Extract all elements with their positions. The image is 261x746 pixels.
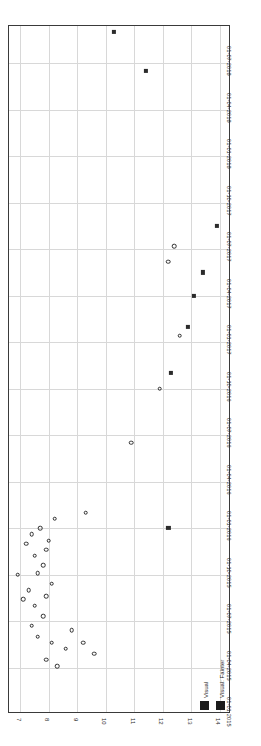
magnitude-tick-label: 8: [44, 718, 50, 721]
data-point: [200, 270, 204, 274]
date-tick-label: 01-01-2018: [226, 139, 232, 169]
date-tick-label: 01-07-2018: [226, 46, 232, 76]
data-point: [55, 664, 60, 669]
magnitude-tick-label: 14: [215, 718, 221, 725]
gridline-date-8: [9, 435, 229, 436]
data-point: [15, 572, 20, 577]
date-tick-label: 01-01-2017: [226, 325, 232, 355]
data-point: [215, 224, 219, 228]
gridline-date-11: [9, 575, 229, 576]
chart-legend: VisualVisual: Fainter: [198, 648, 232, 710]
date-tick-label: 01-04-2016: [226, 465, 232, 495]
data-point: [21, 597, 26, 602]
legend-entry[interactable]: Visual: [198, 648, 213, 710]
data-point: [49, 640, 54, 645]
data-point: [35, 634, 40, 639]
data-point: [47, 538, 52, 543]
date-tick-label: 01-04-2017: [226, 279, 232, 309]
data-point: [144, 69, 148, 73]
data-point: [64, 647, 69, 652]
data-point: [92, 651, 97, 656]
date-tick-label: 01-04-2018: [226, 93, 232, 123]
date-tick-label: 01-01-2016: [226, 511, 232, 541]
magnitude-tick-label: 9: [73, 718, 79, 721]
data-point: [35, 571, 40, 576]
data-point: [158, 386, 163, 391]
data-point: [81, 640, 86, 645]
data-point: [69, 628, 74, 633]
gridline-date-0: [9, 63, 229, 64]
data-point: [38, 526, 43, 531]
gridline-date-4: [9, 249, 229, 250]
legend-label: Visual: [203, 682, 209, 698]
data-point: [44, 594, 49, 599]
data-point: [192, 294, 196, 298]
data-point: [44, 547, 49, 552]
date-tick-label: 01-07-2017: [226, 232, 232, 262]
data-point: [166, 259, 171, 264]
gridline-magnitude-10: [106, 26, 107, 712]
magnitude-tick-label: 13: [187, 718, 193, 725]
data-point: [27, 588, 32, 593]
data-point: [112, 30, 116, 34]
legend-swatch-icon: [200, 701, 209, 710]
magnitude-tick-label: 7: [16, 718, 22, 721]
gridline-date-2: [9, 156, 229, 157]
data-point: [32, 603, 37, 608]
data-point: [44, 658, 49, 663]
data-point: [169, 371, 173, 375]
data-point: [178, 334, 183, 339]
gridline-date-9: [9, 482, 229, 483]
data-point: [24, 541, 29, 546]
data-point: [41, 614, 46, 619]
plot-area: [8, 25, 230, 713]
gridline-date-1: [9, 110, 229, 111]
gridline-magnitude-14: [220, 26, 221, 712]
data-point: [172, 244, 177, 249]
data-point: [30, 532, 35, 537]
date-tick-label: 01-07-2016: [226, 418, 232, 448]
legend-label: Visual: Fainter: [219, 660, 225, 698]
gridline-magnitude-8: [49, 26, 50, 712]
legend-entry[interactable]: Visual: Fainter: [214, 648, 229, 710]
light-curve-chart: 01-07-201801-04-201801-01-201801-10-2017…: [0, 0, 261, 746]
gridline-date-12: [9, 621, 229, 622]
gridline-date-6: [9, 342, 229, 343]
data-point: [32, 554, 37, 559]
date-tick-label: 01-07-2015: [226, 604, 232, 634]
data-point: [30, 623, 35, 628]
gridline-date-13: [9, 668, 229, 669]
data-point: [166, 526, 170, 530]
legend-swatch-icon: [216, 701, 225, 710]
magnitude-tick-label: 11: [130, 718, 136, 724]
gridline-date-3: [9, 203, 229, 204]
date-tick-label: 01-10-2016: [226, 372, 232, 402]
date-tick-label: 01-10-2017: [226, 186, 232, 216]
gridline-date-7: [9, 389, 229, 390]
data-point: [49, 582, 54, 587]
gridline-magnitude-11: [134, 26, 135, 712]
magnitude-tick-label: 12: [158, 718, 164, 725]
gridline-magnitude-7: [20, 26, 21, 712]
gridline-magnitude-12: [163, 26, 164, 712]
data-point: [41, 563, 46, 568]
date-tick-label: 01-10-2015: [226, 558, 232, 588]
magnitude-tick-label: 10: [101, 718, 107, 725]
data-point: [84, 510, 89, 515]
data-point: [129, 441, 134, 446]
data-point: [52, 517, 57, 522]
gridline-magnitude-13: [191, 26, 192, 712]
gridline-magnitude-9: [77, 26, 78, 712]
data-point: [186, 325, 190, 329]
